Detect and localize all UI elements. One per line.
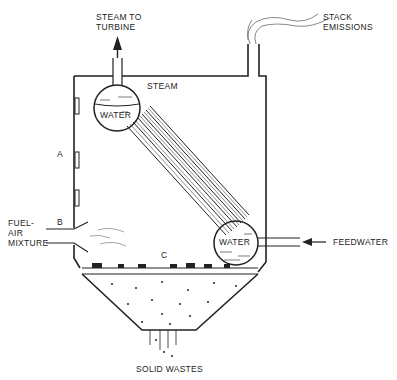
fuel-nozzle (46, 222, 88, 252)
zone-c-label: C (161, 250, 167, 260)
steam-to-turbine-label: STEAM TO TURBINE (96, 12, 142, 32)
arrow-left-icon (302, 238, 312, 246)
solid-wastes-label: SOLID WASTES (136, 364, 203, 374)
steam-pipe (113, 58, 122, 86)
grate (82, 268, 258, 274)
access-door (75, 98, 79, 114)
fuel-air-mixture-label: FUEL- AIR MIXTURE (8, 218, 48, 248)
arrow-up-icon (113, 36, 122, 50)
steam-label: STEAM (147, 81, 178, 91)
access-door (75, 152, 79, 168)
boiler-diagram (0, 0, 397, 380)
feedwater-label: FEEDWATER (333, 237, 388, 247)
zone-a-label: A (57, 149, 63, 159)
zone-b-label: B (57, 217, 63, 227)
lower-water-label: WATER (219, 237, 250, 247)
access-door (75, 190, 79, 206)
feedwater-pipe (258, 238, 300, 246)
stack-emissions-label: STACK EMISSIONS (323, 12, 373, 32)
steam-drum (94, 85, 140, 131)
ash-hopper (82, 274, 258, 330)
upper-water-label: WATER (100, 110, 131, 120)
